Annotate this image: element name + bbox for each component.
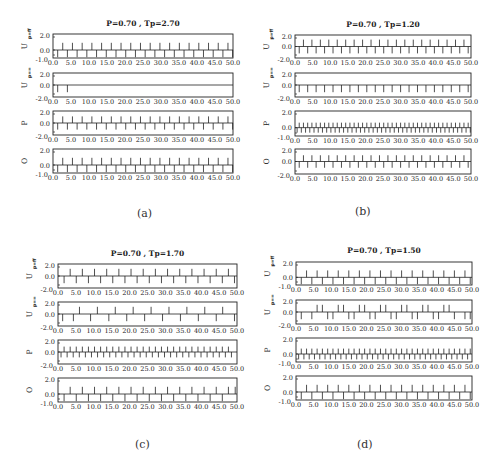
x-tick-label: 45.0 xyxy=(212,327,226,335)
subplot-p: 2.00.0-2.0P0.05.010.015.020.025.030.035.… xyxy=(20,109,240,144)
y-tick-label: 0.0 xyxy=(283,351,293,359)
panel-a: P=0.70 , Tp=2.702.00.0-1.0Up=ff0.05.010.… xyxy=(20,19,240,182)
y-axis-label: U xyxy=(25,273,34,279)
x-tick-label: 35.0 xyxy=(176,365,190,373)
x-tick-label: 25.0 xyxy=(377,401,391,409)
subplot-u-p-ff: 2.00.0-2.0Up=ff0.05.010.015.020.025.030.… xyxy=(262,29,478,67)
y-tick-label: -1.0 xyxy=(277,134,290,142)
x-tick-label: 0.0 xyxy=(291,286,301,294)
x-tick-label: 45.0 xyxy=(208,59,222,67)
x-tick-label: 25.0 xyxy=(376,98,390,106)
x-tick-label: 50.0 xyxy=(230,327,244,335)
y-tick-label: 2.0 xyxy=(283,336,293,344)
y-tick-label: -1.0 xyxy=(40,400,53,408)
x-tick-label: 35.0 xyxy=(411,175,425,183)
x-tick-label: 0.0 xyxy=(53,289,63,297)
figure-canvas: P=0.70 , Tp=2.702.00.0-1.0Up=ff0.05.010.… xyxy=(0,0,504,452)
x-tick-label: 40.0 xyxy=(429,98,443,106)
x-tick-label: 50.0 xyxy=(465,363,479,371)
x-tick-label: 50.0 xyxy=(226,98,240,106)
y-tick-label: 2.0 xyxy=(45,376,55,384)
x-tick-label: 40.0 xyxy=(194,365,208,373)
y-axis-label: P xyxy=(263,347,272,352)
subplot-u-p-: 2.00.0-2.0Up==0.05.010.015.020.025.030.0… xyxy=(262,67,478,106)
subplot-o: 2.00.0-1.0O0.05.010.015.020.025.030.035.… xyxy=(20,147,240,182)
y-tick-label: -1.0 xyxy=(278,398,291,406)
y-tick-label: -2.0 xyxy=(35,133,48,141)
x-tick-label: 45.0 xyxy=(447,325,461,333)
x-tick-label: 45.0 xyxy=(446,175,460,183)
x-tick-label: 45.0 xyxy=(447,401,461,409)
x-tick-label: 20.0 xyxy=(118,98,132,106)
subplot-u-p-ff: 2.00.0-1.0Up=ff0.05.010.015.020.025.030.… xyxy=(20,28,240,67)
x-tick-label: 0.0 xyxy=(53,365,63,373)
y-tick-label: 2.0 xyxy=(45,262,55,270)
y-axis-subscript: p== xyxy=(269,67,274,78)
x-tick-label: 30.0 xyxy=(158,365,172,373)
y-tick-label: -2.0 xyxy=(40,324,53,332)
x-tick-label: 20.0 xyxy=(358,98,372,106)
x-tick-label: 10.0 xyxy=(87,365,101,373)
x-tick-label: 10.0 xyxy=(323,98,337,106)
x-tick-label: 35.0 xyxy=(172,59,186,67)
y-axis-label: U xyxy=(20,82,29,88)
x-tick-label: 30.0 xyxy=(393,175,407,183)
x-tick-label: 30.0 xyxy=(393,59,407,67)
y-tick-label: 0.0 xyxy=(283,309,293,317)
x-tick-label: 15.0 xyxy=(100,136,114,144)
x-tick-label: 25.0 xyxy=(140,289,154,297)
x-tick-label: 40.0 xyxy=(429,59,443,67)
x-tick-label: 5.0 xyxy=(71,365,81,373)
subplot-o: 2.00.0-1.0O0.05.010.015.020.025.030.035.… xyxy=(263,374,479,409)
x-tick-label: 35.0 xyxy=(412,401,426,409)
x-tick-label: 30.0 xyxy=(393,137,407,145)
y-axis-label: O xyxy=(20,158,29,164)
x-tick-label: 40.0 xyxy=(430,325,444,333)
x-tick-label: 30.0 xyxy=(394,363,408,371)
x-tick-label: 25.0 xyxy=(376,137,390,145)
y-axis-label: O xyxy=(262,158,271,164)
x-tick-label: 30.0 xyxy=(158,327,172,335)
x-tick-label: 5.0 xyxy=(308,286,318,294)
x-tick-label: 0.0 xyxy=(53,327,63,335)
x-tick-label: 0.0 xyxy=(290,175,300,183)
x-tick-label: 45.0 xyxy=(208,174,222,182)
x-tick-label: 45.0 xyxy=(212,289,226,297)
y-axis-subscript: p== xyxy=(27,67,32,78)
y-tick-label: 2.0 xyxy=(40,109,50,117)
panel-title: P=0.70 , Tp=1.20 xyxy=(346,20,419,29)
x-tick-label: 40.0 xyxy=(430,401,444,409)
x-tick-label: 30.0 xyxy=(154,174,168,182)
x-tick-label: 0.0 xyxy=(290,59,300,67)
x-tick-label: 20.0 xyxy=(358,137,372,145)
x-tick-label: 20.0 xyxy=(359,363,373,371)
x-tick-label: 50.0 xyxy=(464,59,478,67)
x-tick-label: 10.0 xyxy=(324,363,338,371)
x-tick-label: 50.0 xyxy=(226,59,240,67)
x-tick-label: 35.0 xyxy=(412,363,426,371)
x-tick-label: 50.0 xyxy=(230,403,244,411)
y-tick-label: 2.0 xyxy=(283,374,293,382)
x-tick-label: 15.0 xyxy=(342,325,356,333)
subplot-o: 2.00.0-2.0O0.05.010.015.020.025.030.035.… xyxy=(262,147,478,183)
y-axis-label: O xyxy=(25,387,34,393)
y-tick-label: -2.0 xyxy=(277,56,290,64)
y-tick-label: -2.0 xyxy=(40,362,53,370)
x-tick-label: 10.0 xyxy=(82,174,96,182)
y-tick-label: 2.0 xyxy=(282,147,292,155)
x-tick-label: 15.0 xyxy=(104,365,118,373)
x-tick-label: 35.0 xyxy=(411,98,425,106)
y-tick-label: 0.0 xyxy=(282,82,292,90)
y-tick-label: -2.0 xyxy=(277,172,290,180)
y-axis-label: P xyxy=(20,120,29,125)
x-tick-label: 10.0 xyxy=(87,289,101,297)
y-tick-label: 2.0 xyxy=(40,147,50,155)
x-tick-label: 0.0 xyxy=(48,136,58,144)
x-tick-label: 50.0 xyxy=(226,136,240,144)
x-tick-label: 5.0 xyxy=(308,401,318,409)
x-tick-label: 40.0 xyxy=(429,175,443,183)
x-tick-label: 5.0 xyxy=(307,98,317,106)
plot-frame xyxy=(53,149,233,173)
panel-c: P=0.70 , Tp=1.702.00.0-2.0Up=ff0.05.010.… xyxy=(25,249,244,411)
y-tick-label: 0.0 xyxy=(283,389,293,397)
